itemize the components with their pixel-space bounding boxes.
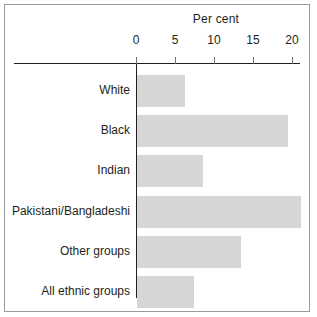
bar-category-label: All ethnic groups — [0, 284, 130, 298]
bar — [137, 276, 194, 308]
bar — [137, 75, 185, 107]
x-tick-mark — [175, 57, 176, 64]
x-axis-line — [14, 63, 300, 64]
x-tick-label: 20 — [277, 33, 307, 47]
x-tick-label: 10 — [199, 33, 229, 47]
x-tick-label: 15 — [238, 33, 268, 47]
bar-category-label: Indian — [0, 163, 130, 177]
x-tick-mark — [136, 57, 137, 64]
bar — [137, 196, 301, 228]
bar-category-label: Pakistani/Bangladeshi — [0, 204, 130, 218]
bar-category-label: Black — [0, 123, 130, 137]
x-tick-mark — [292, 57, 293, 64]
x-tick-label: 5 — [160, 33, 190, 47]
x-tick-label: 0 — [121, 33, 151, 47]
bar-category-label: Other groups — [0, 244, 130, 258]
x-tick-mark — [253, 57, 254, 64]
x-tick-mark — [214, 57, 215, 64]
plot-area: Per cent 05101520 WhiteBlackIndianPakist… — [0, 0, 317, 317]
bar — [137, 115, 288, 147]
bar — [137, 236, 241, 268]
x-axis-title: Per cent — [176, 12, 256, 26]
chart-figure: Per cent 05101520 WhiteBlackIndianPakist… — [0, 0, 317, 317]
bar — [137, 155, 203, 187]
bar-category-label: White — [0, 83, 130, 97]
